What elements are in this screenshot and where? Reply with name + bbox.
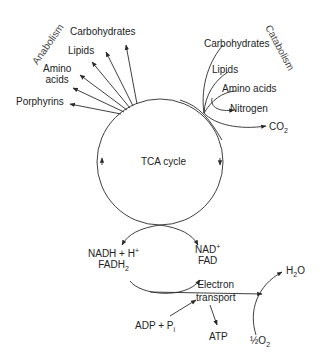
co2-base: CO <box>269 121 284 132</box>
anabolism-carbohydrates-label: Carbohydrates <box>70 26 136 37</box>
tca-cycle-label: TCA cycle <box>141 156 186 167</box>
oxidized-cofactors-label: NAD+ FAD <box>195 244 220 266</box>
fadh-text: FADH <box>98 259 125 270</box>
nitrogen-label: Nitrogen <box>230 103 268 114</box>
water-o: O <box>297 265 305 276</box>
pi-sub: i <box>173 326 175 333</box>
arrow-adp-to-transport <box>170 300 196 316</box>
catabolism-carbohydrates-label: Carbohydrates <box>204 38 270 49</box>
anabolism-lipids-label: Lipids <box>68 45 94 56</box>
catabolism-amino-acids-label: Amino acids <box>222 83 276 94</box>
arrow-to-nad <box>160 225 198 245</box>
oxygen-text: ½O <box>250 335 266 346</box>
fad-line: FAD <box>195 255 220 266</box>
arrow-to-co2 <box>204 113 266 127</box>
arrow-to-nadh <box>122 225 160 245</box>
nad-line: NAD+ <box>195 244 220 255</box>
oxygen-sub: 2 <box>266 341 270 348</box>
amino-line2: acids <box>43 74 71 85</box>
co2-sub: 2 <box>284 127 288 134</box>
nad-sup: + <box>216 243 220 250</box>
arrow-to-atp <box>210 305 217 325</box>
nadh-text: NADH + H <box>88 248 135 259</box>
atp-label: ATP <box>209 331 228 342</box>
water-label: H2O <box>286 265 305 276</box>
electron-transport-label: Electron transport <box>196 279 235 303</box>
arrow-to-porphyrins <box>70 104 121 114</box>
anabolism-amino-acids-label: Amino acids <box>43 63 71 85</box>
anabolism-porphyrins-label: Porphyrins <box>16 96 64 107</box>
nadh-sup: + <box>135 247 139 254</box>
half-oxygen-label: ½O2 <box>250 335 270 346</box>
electron-line: Electron <box>196 279 235 290</box>
amino-line1: Amino <box>43 63 71 74</box>
nadh-line: NADH + H+ <box>88 248 139 259</box>
reduced-cofactors-label: NADH + H+ FADH2 <box>88 248 139 270</box>
adp-pi-label: ADP + Pi <box>135 320 175 331</box>
arrow-oxygen-to-water <box>253 272 282 335</box>
circle-outer-sweep <box>180 100 222 140</box>
nad-text: NAD <box>195 244 216 255</box>
fadh2-line: FADH2 <box>88 259 139 270</box>
fadh-sub: 2 <box>125 265 129 272</box>
transport-line: transport <box>196 292 235 303</box>
arrow-to-lipids-2 <box>92 62 130 108</box>
arrow-nadh-to-nad-loop <box>130 280 200 293</box>
adp-text: ADP + P <box>135 320 173 331</box>
carbohydrates-input <box>203 45 223 113</box>
catabolism-lipids-label: Lipids <box>212 64 238 75</box>
tca-cycle-diagram: Anabolism Carbohydrates Lipids Amino aci… <box>0 0 329 352</box>
co2-label: CO2 <box>269 121 288 132</box>
